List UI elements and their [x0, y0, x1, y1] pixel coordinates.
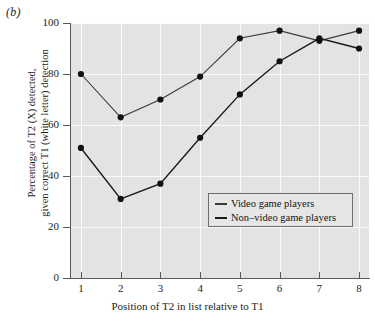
- x-tick-label: 5: [230, 282, 250, 294]
- x-tick-mark: [81, 272, 82, 279]
- x-tick-mark: [160, 272, 161, 279]
- legend-item-non-video-game-players: Non–video game players: [215, 211, 348, 224]
- y-tick-mark: [63, 176, 71, 177]
- legend-label-series-2: Non–video game players: [231, 212, 336, 223]
- y-axis-line: [70, 23, 71, 279]
- gridline-horizontal: [71, 176, 369, 177]
- gridline-horizontal: [71, 23, 369, 24]
- x-tick-label: 8: [349, 282, 369, 294]
- chart-legend: Video game players Non–video game player…: [208, 193, 353, 227]
- y-tick-label: 0: [19, 271, 59, 283]
- x-tick-label: 4: [190, 282, 210, 294]
- x-tick-mark: [280, 272, 281, 279]
- gridline-vertical: [280, 23, 281, 278]
- gridline-horizontal: [71, 125, 369, 126]
- x-tick-label: 2: [111, 282, 131, 294]
- y-tick-mark: [63, 227, 71, 228]
- x-tick-label: 7: [309, 282, 329, 294]
- gridline-vertical: [160, 23, 161, 278]
- gridline-vertical: [359, 23, 360, 278]
- gridline-vertical: [319, 23, 320, 278]
- x-axis-line: [70, 278, 370, 279]
- legend-label-series-1: Video game players: [231, 198, 314, 209]
- x-tick-label: 6: [270, 282, 290, 294]
- x-tick-mark: [240, 272, 241, 279]
- y-tick-mark: [63, 74, 71, 75]
- x-tick-mark: [359, 272, 360, 279]
- x-tick-mark: [121, 272, 122, 279]
- gridline-vertical: [121, 23, 122, 278]
- gridline-horizontal: [71, 227, 369, 228]
- x-tick-mark: [319, 272, 320, 279]
- y-tick-mark: [63, 278, 71, 279]
- y-axis-label-line-1: Percentage of T2 (X) detected,: [25, 3, 38, 263]
- gridline-vertical: [240, 23, 241, 278]
- x-tick-label: 1: [71, 282, 91, 294]
- gridline-vertical: [200, 23, 201, 278]
- figure-panel-b: (b) 020406080100 12345678 Percentage of …: [0, 0, 375, 322]
- gridline-vertical: [81, 23, 82, 278]
- plot-area: [71, 23, 369, 278]
- y-axis-label-line-2: given correct T1 (white letter) detectio…: [38, 3, 51, 263]
- x-tick-label: 3: [150, 282, 170, 294]
- x-axis-label: Position of T2 in list relative to T1: [0, 300, 375, 312]
- legend-swatch-series-1: [215, 203, 227, 205]
- y-tick-mark: [63, 125, 71, 126]
- gridline-horizontal: [71, 74, 369, 75]
- legend-swatch-series-2: [215, 217, 227, 219]
- y-tick-mark: [63, 23, 71, 24]
- y-axis-label: Percentage of T2 (X) detected, given cor…: [25, 3, 51, 263]
- legend-item-video-game-players: Video game players: [215, 197, 348, 210]
- x-tick-mark: [200, 272, 201, 279]
